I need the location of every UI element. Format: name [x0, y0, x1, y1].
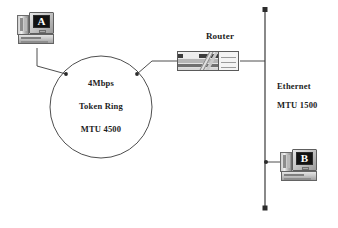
ethernet-type-label: Ethernet: [277, 81, 311, 91]
token-ring-mtu-label: MTU 4500: [49, 124, 153, 134]
host-a-screen-letter: A: [38, 16, 46, 27]
host-a-screen: A: [33, 15, 50, 28]
host-b-monitor-icon: B: [292, 149, 317, 171]
network-diagram-canvas: A Router 4Mbps Token Ring MTU 4500 Ether…: [0, 0, 338, 228]
router-side-panel: [218, 52, 238, 70]
ethernet-bus-bottom-cap: [263, 206, 268, 211]
link-router-to-ring: [137, 61, 177, 74]
host-b-tower-icon: [280, 152, 292, 172]
router-icon: [177, 51, 239, 71]
token-ring-type-label: Token Ring: [49, 101, 153, 111]
router-label: Router: [180, 31, 260, 41]
host-a-workstation: A: [16, 12, 56, 48]
host-b-screen-letter: B: [301, 153, 308, 164]
host-b-workstation: B: [279, 149, 319, 185]
link-host-b-endpoint: [264, 160, 268, 164]
host-b-screen: B: [296, 152, 313, 165]
token-ring-speed-label: 4Mbps: [49, 78, 153, 88]
ethernet-mtu-label: MTU 1500: [277, 100, 318, 110]
host-a-monitor-stand: [39, 30, 46, 33]
host-b-monitor-stand: [302, 167, 309, 170]
host-a-monitor-icon: A: [29, 12, 54, 34]
host-a-keyboard-base-icon: [18, 34, 54, 44]
link-host-a-endpoint: [64, 72, 68, 76]
link-router-ring-endpoint: [135, 72, 139, 76]
link-host-a-to-ring: [37, 48, 66, 74]
host-a-tower-icon: [17, 15, 29, 35]
router-chip: [183, 54, 199, 58]
ethernet-bus-top-cap: [263, 7, 268, 12]
host-b-keyboard-base-icon: [281, 171, 317, 181]
